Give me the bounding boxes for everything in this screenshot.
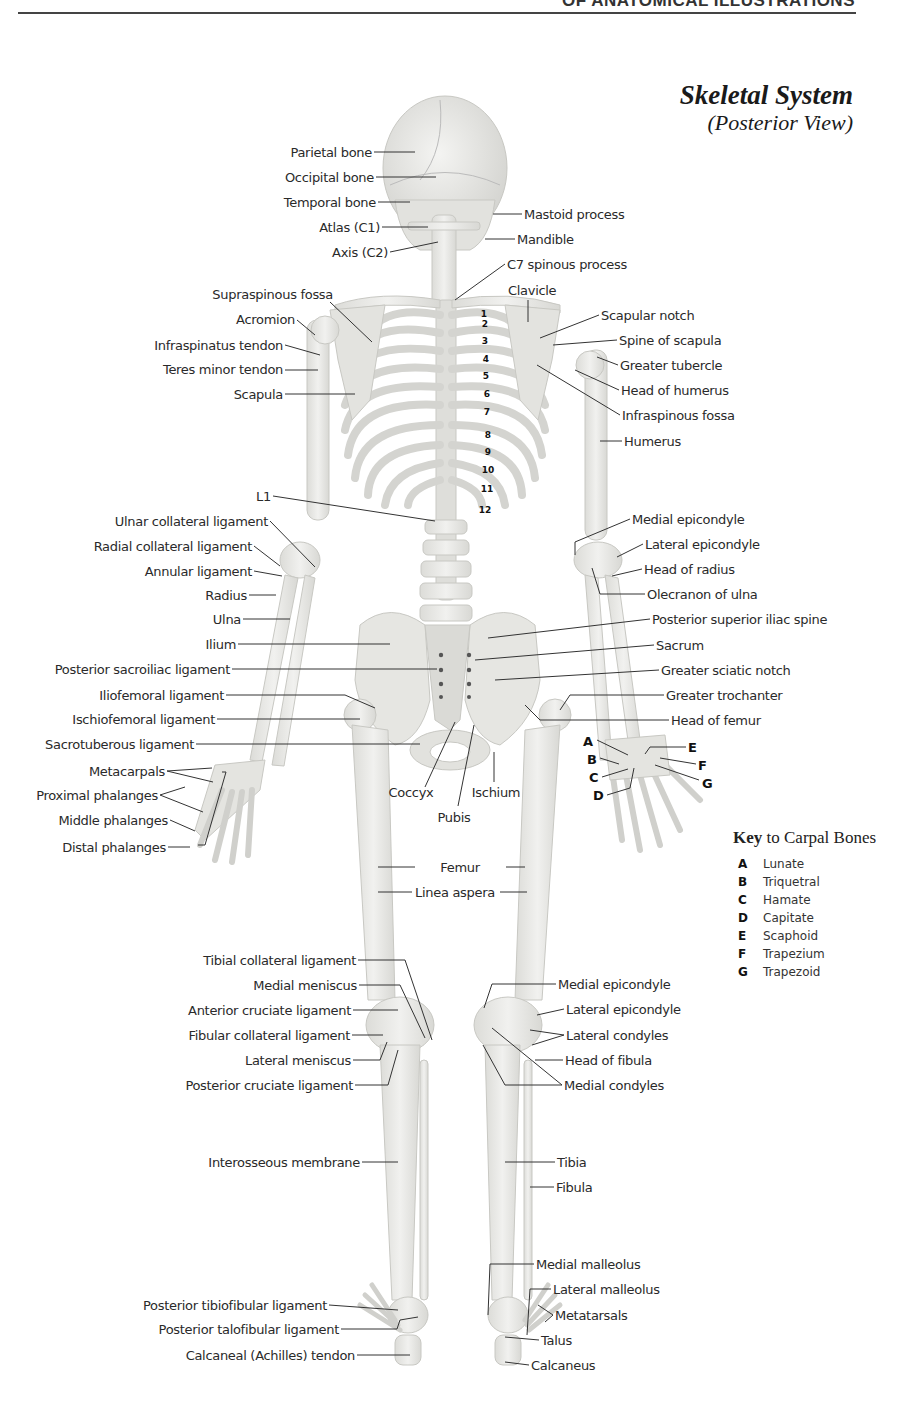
label-distal-phalanges: Distal phalanges [62,840,166,856]
label-ischium: Ischium [472,785,520,801]
carpal-key-entry: EScaphoid [738,929,818,943]
label-talus: Talus [541,1333,572,1349]
label-ilium: Ilium [206,637,236,653]
label-head-of-humerus: Head of humerus [621,383,729,399]
carpal-key-entry: ALunate [738,857,804,871]
label-lateral-condyles: Lateral condyles [566,1028,668,1044]
rib-number: 5 [483,371,489,381]
label-head-of-fibula: Head of fibula [565,1053,652,1069]
carpal-key-entry: DCapitate [738,911,814,925]
label-annular-ligament: Annular ligament [145,564,252,580]
label-lateral-malleolus: Lateral malleolus [553,1282,660,1298]
label-infraspinatus-tendon: Infraspinatus tendon [154,338,283,354]
label-atlas-c1: Atlas (C1) [319,220,380,236]
label-posterior-cruciate-ligament: Posterior cruciate ligament [185,1078,353,1094]
rib-number: 10 [482,465,495,475]
key-bone-name: Lunate [763,857,804,871]
rib-number: 4 [483,354,489,364]
label-iliofemoral-ligament: Iliofemoral ligament [99,688,224,704]
key-letter: F [738,947,763,961]
label-lateral-epicondyle-leg: Lateral epicondyle [566,1002,681,1018]
label-scapula: Scapula [234,387,283,403]
label-posterior-tibiofibular-ligament: Posterior tibiofibular ligament [143,1298,327,1314]
key-letter: E [738,929,763,943]
label-ulnar-collateral-ligament: Ulnar collateral ligament [115,514,268,530]
carpal-key-title: Key to Carpal Bones [733,828,876,848]
key-letter: C [738,893,763,907]
rib-number: 2 [482,319,488,329]
label-metatarsals: Metatarsals [555,1308,628,1324]
label-medial-condyles: Medial condyles [564,1078,664,1094]
label-ischiofemoral-ligament: Ischiofemoral ligament [72,712,215,728]
label-scapular-notch: Scapular notch [601,308,694,324]
carpal-key-entry: GTrapezoid [738,965,820,979]
carpal-key-title-bold: Key [733,828,762,847]
label-sacrum: Sacrum [656,638,704,654]
label-middle-phalanges: Middle phalanges [58,813,168,829]
label-mandible: Mandible [517,232,574,248]
label-coccyx: Coccyx [389,785,434,801]
label-medial-meniscus: Medial meniscus [253,978,357,994]
rib-number: 7 [484,407,490,417]
label-acromion: Acromion [236,312,295,328]
key-letter: A [738,857,763,871]
label-proximal-phalanges: Proximal phalanges [36,788,158,804]
rib-number: 11 [481,484,494,494]
label-posterior-sacroiliac-ligament: Posterior sacroiliac ligament [55,662,230,678]
label-metacarpals: Metacarpals [89,764,165,780]
label-greater-tubercle: Greater tubercle [620,358,722,374]
label-lateral-meniscus: Lateral meniscus [245,1053,351,1069]
label-infraspinous-fossa: Infraspinous fossa [622,408,735,424]
label-parietal-bone: Parietal bone [290,145,372,161]
carpal-key-title-rest: to Carpal Bones [762,828,876,847]
label-axis-c2: Axis (C2) [332,245,388,261]
carpal-key-entry: CHamate [738,893,811,907]
label-l1: L1 [256,489,271,505]
key-bone-name: Hamate [763,893,811,907]
label-medial-epicondyle-arm: Medial epicondyle [632,512,744,528]
label-sacrotuberous-ligament: Sacrotuberous ligament [45,737,194,753]
label-head-of-femur: Head of femur [671,713,761,729]
carpal-letter-d: D [593,788,604,803]
key-letter: G [738,965,763,979]
carpal-key-entry: FTrapezium [738,947,825,961]
key-letter: D [738,911,763,925]
label-mastoid-process: Mastoid process [524,207,624,223]
carpal-letter-b: B [587,752,597,767]
key-bone-name: Trapezoid [763,965,820,979]
label-calcaneal-achilles-tendon: Calcaneal (Achilles) tendon [186,1348,355,1364]
label-greater-sciatic-notch: Greater sciatic notch [661,663,791,679]
label-interosseous-membrane: Interosseous membrane [208,1155,360,1171]
label-olecranon-of-ulna: Olecranon of ulna [647,587,758,603]
label-medial-epicondyle-leg: Medial epicondyle [558,977,670,993]
label-linea-aspera: Linea aspera [415,885,495,901]
label-supraspinous-fossa: Supraspinous fossa [212,287,333,303]
label-humerus: Humerus [624,434,681,450]
carpal-letter-f: F [698,758,707,773]
key-bone-name: Trapezium [763,947,825,961]
key-bone-name: Capitate [763,911,814,925]
label-ulna: Ulna [213,612,241,628]
key-bone-name: Scaphoid [763,929,818,943]
carpal-letter-a: A [583,734,593,749]
carpal-letter-e: E [688,740,697,755]
label-anterior-cruciate-ligament: Anterior cruciate ligament [188,1003,351,1019]
label-clavicle: Clavicle [508,283,556,299]
carpal-letter-c: C [589,770,599,785]
label-posterior-talofibular-ligament: Posterior talofibular ligament [159,1322,339,1338]
rib-number: 3 [482,336,488,346]
label-tibia: Tibia [557,1155,586,1171]
rib-number: 8 [485,430,491,440]
label-greater-trochanter: Greater trochanter [666,688,782,704]
label-posterior-superior-iliac-spine: Posterior superior iliac spine [652,612,827,628]
skeleton-illustration [0,0,899,1420]
label-pubis: Pubis [438,810,471,826]
label-radius: Radius [205,588,247,604]
rib-number: 9 [485,447,491,457]
label-temporal-bone: Temporal bone [284,195,376,211]
label-radial-collateral-ligament: Radial collateral ligament [94,539,252,555]
label-femur: Femur [440,860,480,876]
label-teres-minor-tendon: Teres minor tendon [163,362,283,378]
label-lateral-epicondyle-arm: Lateral epicondyle [645,537,760,553]
label-medial-malleolus: Medial malleolus [536,1257,640,1273]
